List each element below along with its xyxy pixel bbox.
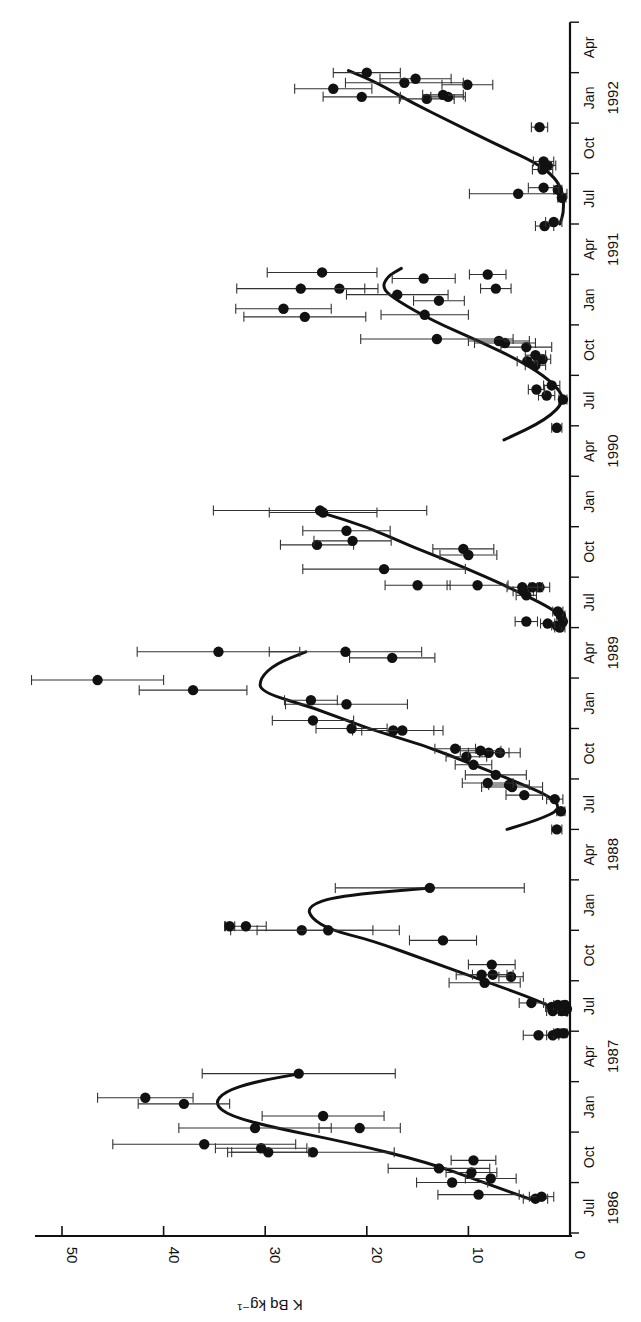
month-tick-label: Oct: [581, 339, 597, 361]
data-point: [469, 189, 567, 199]
year-label: 1986: [604, 1191, 621, 1224]
month-tick-label: Jul: [581, 190, 597, 208]
data-point: [553, 184, 563, 194]
data-point: [489, 780, 530, 790]
data-point: [333, 67, 400, 77]
data-point: [531, 122, 547, 132]
month-tick-label: Jul: [581, 392, 597, 410]
month-tick-label: Jan: [581, 490, 597, 513]
data-point: [236, 304, 332, 314]
month-tick-label: Jul: [581, 593, 597, 611]
month-tick-label: Jul: [581, 1199, 597, 1217]
month-tick-label: Oct: [581, 945, 597, 967]
data-point: [431, 92, 466, 102]
data-point: [139, 685, 247, 695]
month-tick-label: Oct: [581, 1146, 597, 1168]
data-point: [468, 959, 515, 969]
data-point: [392, 273, 455, 283]
data-point: [385, 580, 450, 590]
month-tick-label: Apr: [581, 642, 597, 664]
data-point: [257, 925, 399, 935]
data-point: [468, 336, 529, 346]
month-tick-label: Apr: [581, 238, 597, 260]
data-point: [272, 715, 353, 725]
month-tick-label: Apr: [581, 843, 597, 865]
data-point: [137, 647, 300, 657]
value-tick-label: 20: [369, 1247, 386, 1264]
data-point: [213, 505, 426, 515]
data-point: [346, 289, 448, 299]
month-tick-label: Apr: [581, 440, 597, 462]
month-tick-label: Oct: [581, 541, 597, 563]
value-tick-label: 30: [267, 1247, 284, 1264]
axes: 01020304050JulOctJanAprJulOctJanAprJulOc…: [35, 22, 621, 1263]
data-point: [499, 972, 523, 982]
data-point: [303, 526, 390, 536]
data-point: [262, 1111, 384, 1121]
data-point: [558, 394, 568, 404]
month-tick-label: Jan: [581, 692, 597, 715]
data-point: [409, 935, 476, 945]
data-point: [465, 770, 526, 780]
data-point: [179, 1123, 331, 1133]
year-label: 1988: [604, 838, 621, 871]
data-point: [303, 564, 466, 574]
data-point: [560, 1000, 570, 1010]
scatter-chart: 01020304050JulOctJanAprJulOctJanAprJulOc…: [0, 0, 641, 1322]
month-tick-label: Jan: [581, 1096, 597, 1119]
data-point: [556, 806, 566, 816]
data-point: [442, 80, 493, 90]
chart-container: 01020304050JulOctJanAprJulOctJanAprJulOc…: [0, 0, 641, 1322]
value-tick-label: 50: [64, 1247, 81, 1264]
data-point: [244, 312, 366, 322]
month-tick-label: Apr: [581, 36, 597, 58]
value-tick-label: 10: [470, 1247, 487, 1264]
data-point: [552, 423, 562, 433]
data-point: [433, 544, 494, 554]
month-tick-label: Jan: [581, 894, 597, 917]
data-point: [469, 269, 506, 279]
month-tick-label: Jul: [581, 997, 597, 1015]
data-point: [414, 295, 465, 305]
data-point: [553, 606, 563, 616]
data-point: [267, 267, 377, 277]
data-point: [202, 1068, 395, 1078]
month-tick-label: Apr: [581, 1045, 597, 1067]
year-label: 1987: [604, 1040, 621, 1073]
data-point: [224, 921, 234, 931]
month-tick-label: Jan: [581, 288, 597, 311]
data-point: [98, 1093, 194, 1103]
value-tick-label: 40: [166, 1247, 183, 1264]
month-tick-label: Jan: [581, 87, 597, 110]
data-point: [559, 1028, 569, 1038]
fitted-curve: [217, 71, 567, 1201]
data-point: [381, 310, 468, 320]
value-axis-label: K Bq kg⁻¹: [237, 1297, 303, 1314]
data-point: [237, 283, 365, 293]
data-point: [32, 675, 164, 685]
data-point: [451, 1155, 496, 1165]
data-point: [362, 725, 443, 735]
data-point: [481, 283, 511, 293]
value-tick-label: 0: [572, 1251, 589, 1259]
month-tick-label: Oct: [581, 137, 597, 159]
month-tick-label: Oct: [581, 743, 597, 765]
data-points: [32, 67, 573, 1203]
data-point: [138, 1099, 229, 1109]
year-label: 1990: [604, 434, 621, 467]
year-label: 1992: [604, 81, 621, 114]
data-point: [335, 883, 524, 893]
data-point: [515, 616, 537, 626]
month-tick-label: Jul: [581, 795, 597, 813]
data-point: [440, 550, 497, 560]
year-label: 1991: [604, 233, 621, 266]
data-point: [552, 824, 562, 834]
data-point: [519, 998, 543, 1008]
year-label: 1989: [604, 636, 621, 669]
